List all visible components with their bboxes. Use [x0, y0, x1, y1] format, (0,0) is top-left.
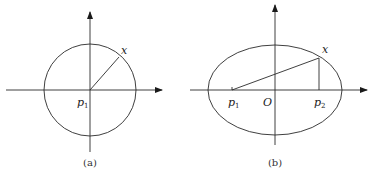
- label-x-a: x: [121, 44, 128, 57]
- figure-a: x p1 (a): [6, 12, 162, 168]
- focal-line-b: [232, 58, 319, 90]
- label-origin-b: O: [263, 96, 272, 109]
- label-p1-a: p1: [77, 96, 89, 110]
- label-x-b: x: [322, 43, 329, 56]
- figure-b: x p1 O p2 (b): [190, 5, 367, 168]
- label-p1-b: p1: [228, 96, 240, 110]
- radius-line-a: [90, 57, 119, 90]
- caption-a: (a): [83, 157, 97, 168]
- diagram-canvas: x p1 (a) x p1 O p2 (b): [0, 0, 371, 174]
- caption-b: (b): [268, 157, 282, 168]
- label-p2-b: p2: [314, 96, 326, 110]
